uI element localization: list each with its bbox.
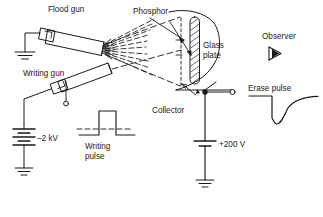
label-glass-plate-line1: Glass xyxy=(203,41,224,50)
ground-icon xyxy=(15,168,33,175)
schematic-svg: Flood gun Writing gun Phosphor Glass pla… xyxy=(0,0,323,217)
electron-beam-dashed-icon xyxy=(112,50,181,69)
label-phosphor: Phosphor xyxy=(133,7,168,16)
label-writing-gun: Writing gun xyxy=(23,69,65,78)
junction-dot-icon xyxy=(202,89,207,94)
writing-pulse-waveform xyxy=(77,111,135,135)
writing-gun-body xyxy=(51,63,113,94)
label-positive-supply: +200 V xyxy=(219,140,246,149)
ground-icon xyxy=(196,180,214,187)
battery-multicell-icon xyxy=(13,124,35,168)
label-negative-supply: –2 kV xyxy=(37,134,58,143)
phosphor-leader xyxy=(150,18,191,55)
label-observer: Observer xyxy=(262,32,296,41)
label-erase-pulse: Erase pulse xyxy=(248,84,292,93)
open-terminal-icon xyxy=(230,90,235,95)
label-glass-plate-line2: plate xyxy=(203,51,221,60)
battery-cell-icon xyxy=(194,141,216,180)
erase-pulse-waveform xyxy=(249,96,318,124)
electron-beam-fan-icon xyxy=(103,19,154,75)
label-flood-gun: Flood gun xyxy=(48,5,85,14)
figure-canvas: Flood gun Writing gun Phosphor Glass pla… xyxy=(0,0,323,217)
label-writing-pulse-line2: pulse xyxy=(85,152,105,161)
flood-gun-ground-lead xyxy=(25,33,40,52)
positive-supply-wiring xyxy=(205,90,230,141)
flood-gun-body xyxy=(39,28,104,56)
label-writing-pulse-line1: Writing xyxy=(85,142,111,151)
label-collector: Collector xyxy=(152,106,185,115)
writing-gun-cathode-lead xyxy=(24,89,51,124)
observer-eye-icon xyxy=(269,47,281,60)
open-terminal-icon xyxy=(64,101,69,106)
ground-icon xyxy=(15,52,35,59)
